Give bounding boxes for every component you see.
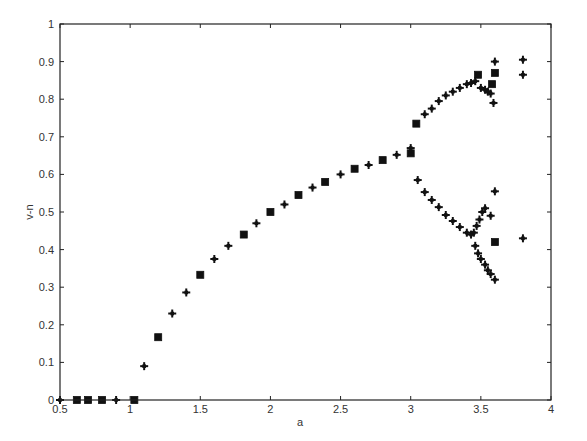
data-point-plus: [435, 97, 443, 105]
data-point-square: [491, 69, 498, 76]
data-point-plus: [428, 105, 436, 113]
data-point-square: [322, 178, 329, 185]
y-tick-label: 0.8: [39, 93, 54, 105]
data-point-square: [240, 231, 247, 238]
data-point-square: [413, 120, 420, 127]
data-point-plus: [449, 88, 457, 96]
y-tick-label: 0.4: [39, 244, 54, 256]
data-point-plus: [309, 184, 317, 192]
data-point-square: [351, 165, 358, 172]
x-tick-label: 1.5: [193, 403, 208, 415]
x-tick-label: 3.5: [473, 403, 488, 415]
y-tick-label: 0.9: [39, 56, 54, 68]
data-point-square: [267, 209, 274, 216]
y-tick-label: 0.6: [39, 168, 54, 180]
y-axis-label: v-n: [23, 204, 35, 219]
data-point-square: [491, 239, 498, 246]
y-tick-label: 1: [48, 18, 54, 30]
data-point-square: [379, 157, 386, 164]
data-point-plus: [393, 151, 401, 159]
data-point-plus: [210, 255, 218, 263]
data-point-plus: [428, 196, 436, 204]
y-tick-label: 0.5: [39, 206, 54, 218]
y-tick-label: 0.7: [39, 131, 54, 143]
data-point-plus: [421, 110, 429, 118]
data-point-plus: [140, 362, 148, 370]
data-point-plus: [182, 288, 190, 296]
data-point-plus: [252, 219, 260, 227]
data-point-square: [155, 334, 162, 341]
scatter-chart: 0.511.522.533.54 00.10.20.30.40.50.60.70…: [0, 0, 587, 441]
data-point-square: [295, 192, 302, 199]
data-point-plus: [489, 99, 497, 107]
x-tick-label: 2: [267, 403, 273, 415]
data-point-plus: [519, 234, 527, 242]
data-point-plus: [224, 242, 232, 250]
y-tick-label: 0.2: [39, 319, 54, 331]
data-point-plus: [365, 161, 373, 169]
data-point-plus: [414, 176, 422, 184]
x-tick-label: 4: [548, 403, 554, 415]
data-point-plus: [442, 211, 450, 219]
data-point-plus: [491, 276, 499, 284]
y-tick-label: 0.1: [39, 356, 54, 368]
x-axis-label: a: [297, 416, 304, 428]
data-point-plus: [456, 84, 464, 92]
x-tick-label: 3: [408, 403, 414, 415]
data-point-plus: [491, 58, 499, 66]
x-tick-label: 1: [127, 403, 133, 415]
data-point-square: [489, 81, 496, 88]
data-point-plus: [337, 170, 345, 178]
data-point-plus: [456, 223, 464, 231]
data-point-plus: [280, 200, 288, 208]
data-point-plus: [471, 242, 479, 250]
data-point-plus: [491, 187, 499, 195]
data-point-plus: [442, 91, 450, 99]
data-point-square: [197, 271, 204, 278]
y-tick-label: 0.3: [39, 281, 54, 293]
x-tick-label: 0.5: [52, 403, 67, 415]
data-point-plus: [435, 203, 443, 211]
data-point-plus: [519, 56, 527, 64]
data-point-plus: [449, 217, 457, 225]
data-point-plus: [519, 71, 527, 79]
data-point-plus: [421, 188, 429, 196]
data-point-plus: [487, 212, 495, 220]
data-markers: [56, 56, 527, 404]
x-tick-label: 2.5: [333, 403, 348, 415]
y-tick-label: 0: [48, 394, 54, 406]
data-point-plus: [168, 310, 176, 318]
